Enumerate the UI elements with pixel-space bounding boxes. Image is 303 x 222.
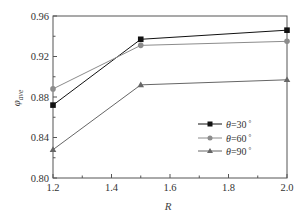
y-tick-label: 0.92 [31,51,49,62]
data-series [50,27,291,152]
square-marker-icon [138,36,144,42]
legend-item: θ=30° [198,119,252,130]
square-marker-icon [284,27,290,33]
legend-label: θ=60° [226,133,252,144]
x-tick-label: 2.0 [280,182,293,193]
legend-label: θ=30° [226,119,252,130]
x-tick-label: 1.2 [46,182,59,193]
plot-area [53,16,287,178]
circle-marker-icon [138,43,144,49]
series-triangle [50,76,291,151]
legend-item: θ=90° [198,146,252,157]
x-tick-label: 1.4 [105,182,119,193]
square-marker-icon [50,102,56,108]
circle-marker-icon [50,86,56,92]
y-tick-label: 0.96 [31,11,49,22]
y-tick-label: 0.80 [31,173,49,184]
x-tick-label: 1.6 [163,182,176,193]
y-tick-label: 0.88 [31,92,49,103]
x-tick-label: 1.8 [222,182,235,193]
x-axis-label: R [164,200,172,212]
series-line [53,30,287,105]
plot-border [53,16,287,178]
legend-label: θ=90° [226,146,252,157]
y-axis-label-sub: ave [16,89,25,100]
series-square [50,27,290,108]
svg-text:φave: φave [10,89,25,106]
y-axis-label: φave [10,89,25,106]
legend: θ=30°θ=60°θ=90° [198,119,252,157]
circle-marker-icon [284,39,290,45]
circle-marker-icon [208,136,213,141]
square-marker-icon [208,122,213,127]
legend-item: θ=60° [198,133,252,144]
series-line [53,80,287,150]
line-chart: 1.21.41.61.82.00.800.840.880.920.96 θ=30… [0,0,303,222]
triangle-marker-icon [284,76,291,82]
series-line [53,41,287,89]
y-tick-label: 0.84 [31,132,50,143]
triangle-marker-icon [50,146,57,152]
